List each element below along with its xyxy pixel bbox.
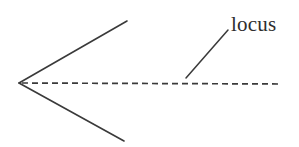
locus-label: locus [231,12,276,36]
figure-canvas: locus [0,0,299,147]
